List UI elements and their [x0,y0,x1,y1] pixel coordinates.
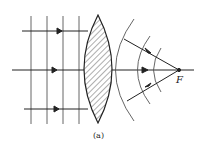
arrow-icon [145,48,151,53]
arrow-icon [142,67,148,73]
focal-label: F [175,74,184,85]
ray-lower-converging [127,70,179,101]
focal-point-dot [177,68,180,71]
lens-diagram: F (a) [0,0,201,144]
ray-upper-converging [124,39,179,70]
arrow-icon [57,28,62,34]
figure-caption: (a) [93,131,104,140]
arrow-icon [145,83,151,87]
arrow-icon [52,67,57,73]
arrow-icon [54,106,59,112]
